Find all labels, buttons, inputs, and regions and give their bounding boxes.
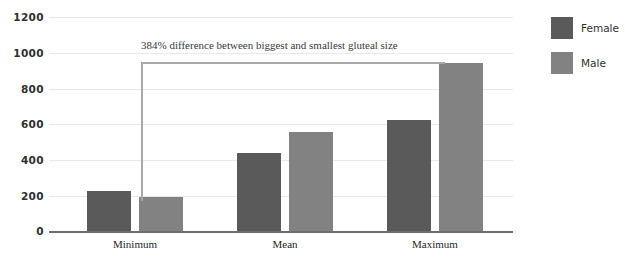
y-tick-label-800: 800 <box>21 83 44 95</box>
y-tick-label-1000: 1000 <box>13 47 44 59</box>
chart-legend: Female Male <box>551 17 619 87</box>
y-tick-label-400: 400 <box>21 154 44 166</box>
x-category-label-maximum: Maximum <box>412 238 458 250</box>
annotation-bracket-vertical <box>141 62 143 201</box>
x-category-label-mean: Mean <box>272 238 297 250</box>
bar-mean-male <box>289 132 333 231</box>
bar-maximum-male <box>439 63 483 231</box>
x-category-label-minimum: Minimum <box>113 238 157 250</box>
chart-container: 1200 1000 800 600 400 200 0 384% differe… <box>0 0 625 266</box>
bar-mean-female <box>237 153 281 232</box>
bar-minimum-female <box>87 191 131 231</box>
annotation-label: 384% difference between biggest and smal… <box>141 39 398 51</box>
legend-item-male: Male <box>551 52 619 74</box>
annotation-bracket-horizontal <box>141 62 445 64</box>
legend-label-female: Female <box>581 22 619 34</box>
legend-item-female: Female <box>551 17 619 39</box>
gridline-1000 <box>49 53 513 54</box>
legend-label-male: Male <box>581 57 606 69</box>
bar-minimum-male <box>139 197 183 231</box>
y-tick-label-200: 200 <box>21 190 44 202</box>
bar-maximum-female <box>387 120 431 232</box>
legend-swatch-male-icon <box>551 52 573 74</box>
y-tick-label-1200: 1200 <box>13 11 44 23</box>
gridline-1200 <box>49 17 513 18</box>
y-tick-label-0: 0 <box>36 225 44 237</box>
x-axis-line <box>49 231 513 233</box>
y-tick-label-600: 600 <box>21 118 44 130</box>
legend-swatch-female-icon <box>551 17 573 39</box>
